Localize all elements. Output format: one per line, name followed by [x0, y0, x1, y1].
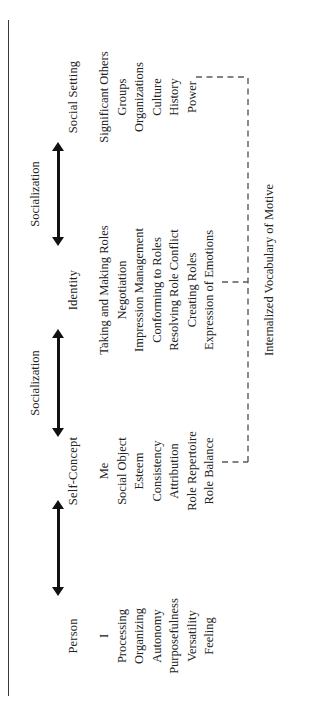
- list-item: Organizing: [131, 598, 149, 674]
- list-item: Feeling: [201, 598, 219, 674]
- arrow-shaft: [57, 507, 60, 589]
- arrow-shaft: [57, 149, 60, 239]
- column-title-self-concept: Self-Concept: [66, 437, 81, 505]
- list-item: Conforming to Roles: [149, 225, 167, 354]
- arrow-head-right-icon: [52, 500, 64, 509]
- list-item: Creating Roles: [184, 225, 202, 354]
- column-social-setting: Significant Others Groups Organizations …: [96, 51, 201, 142]
- list-item: Role Repertoire: [184, 431, 202, 511]
- arrow-head-right-icon: [52, 142, 64, 151]
- list-item: Impression Management: [131, 225, 149, 354]
- column-identity: Taking and Making Roles Negotiation Impr…: [96, 225, 219, 354]
- list-item: Consistency: [149, 431, 167, 511]
- list-item: Esteem: [131, 431, 149, 511]
- list-item: Role Balance: [201, 431, 219, 511]
- list-item: Organizations: [131, 51, 149, 142]
- column-title-identity: Identity: [66, 270, 81, 310]
- list-item: I: [96, 598, 114, 674]
- page-rule: [8, 20, 9, 696]
- item-columns: I Processing Organizing Autonomy Purpose…: [96, 0, 216, 714]
- arrow-head-right-icon: [52, 329, 64, 338]
- list-item: Resolving Role Conflict: [166, 225, 184, 354]
- list-item: Me: [96, 431, 114, 511]
- list-item: History: [166, 51, 184, 142]
- figure-canvas: Socialization Socialization Person Self-…: [0, 0, 332, 714]
- column-person: I Processing Organizing Autonomy Purpose…: [96, 598, 219, 674]
- axis-band: Socialization Socialization Person Self-…: [26, 0, 92, 714]
- arrow-identity-social-setting: [52, 142, 64, 246]
- list-item: Negotiation: [114, 225, 132, 354]
- column-title-person: Person: [66, 618, 81, 653]
- bracket-label: Internalized Vocabulary of Motive: [262, 184, 277, 356]
- arrow-label-socialization-1: Socialization: [28, 350, 43, 415]
- list-item: Purposefulness: [166, 598, 184, 674]
- arrow-person-self-concept: [52, 500, 64, 596]
- list-item: Power: [184, 51, 202, 142]
- list-item: Significant Others: [96, 51, 114, 142]
- list-item: Taking and Making Roles: [96, 225, 114, 354]
- list-item: Culture: [149, 51, 167, 142]
- arrow-self-concept-identity: [52, 329, 64, 437]
- list-item: Processing: [114, 598, 132, 674]
- arrow-shaft: [57, 336, 60, 430]
- list-item: Expression of Emotions: [201, 225, 219, 354]
- list-item: Social Object: [114, 431, 132, 511]
- column-self-concept: Me Social Object Esteem Consistency Attr…: [96, 431, 219, 511]
- arrow-label-socialization-2: Socialization: [28, 161, 43, 226]
- list-item: Attribution: [166, 431, 184, 511]
- list-item: Versatility: [184, 598, 202, 674]
- list-item: Autonomy: [149, 598, 167, 674]
- column-title-social-setting: Social Setting: [66, 61, 81, 134]
- list-item: Groups: [114, 51, 132, 142]
